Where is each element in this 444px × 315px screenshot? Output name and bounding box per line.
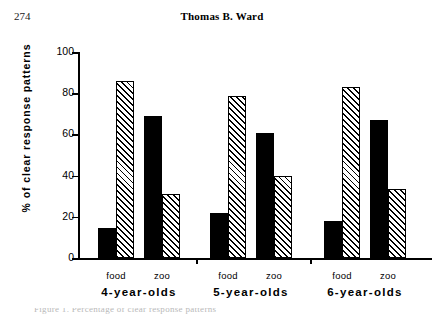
figure-caption-clipped: Figure 1. Percentage of clear response p… <box>0 308 444 315</box>
y-tick-label: 40 <box>62 169 74 182</box>
condition-label: food <box>320 270 364 281</box>
y-tick-label: 100 <box>56 45 74 58</box>
y-axis-label: % of clear response patterns <box>20 28 32 228</box>
group-label: 6-year-olds <box>305 286 425 298</box>
condition-label: zoo <box>252 270 296 281</box>
bar <box>162 194 180 258</box>
figure-bar-chart: % of clear response patterns 02040608010… <box>0 30 444 315</box>
bar <box>98 228 116 258</box>
y-tick-label: 80 <box>62 86 74 99</box>
bar <box>342 87 360 258</box>
bar <box>210 213 228 258</box>
x-tick-mark <box>196 258 198 264</box>
y-axis-line <box>78 52 80 258</box>
condition-label: zoo <box>366 270 410 281</box>
y-tick-label: 60 <box>62 127 74 140</box>
figure-caption-text: Figure 1. Percentage of clear response p… <box>34 308 216 314</box>
condition-label: food <box>206 270 250 281</box>
bar <box>324 221 342 258</box>
condition-label: food <box>94 270 138 281</box>
running-head-title: Thomas B. Ward <box>0 10 444 22</box>
bar <box>274 176 292 258</box>
bar <box>388 189 406 258</box>
plot-area: 020406080100 <box>78 52 432 258</box>
group-label: 5-year-olds <box>191 286 311 298</box>
bar <box>228 96 246 258</box>
bar <box>116 81 134 258</box>
condition-label: zoo <box>140 270 184 281</box>
x-tick-mark <box>310 258 312 264</box>
bar <box>256 133 274 258</box>
group-label: 4-year-olds <box>79 286 199 298</box>
page-header: 274 Thomas B. Ward <box>0 10 444 26</box>
y-tick-label: 20 <box>62 210 74 223</box>
bar <box>370 120 388 258</box>
bar <box>144 116 162 258</box>
y-tick-label: 0 <box>68 251 74 264</box>
x-axis-line <box>78 258 432 260</box>
